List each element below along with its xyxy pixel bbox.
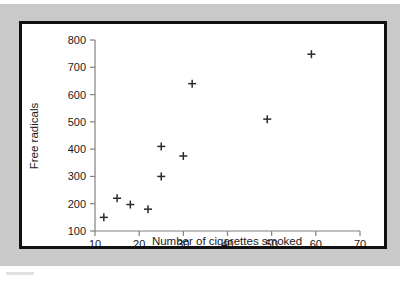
x-tick-label: 70 <box>354 238 366 246</box>
data-point-markers <box>100 50 316 221</box>
y-axis-title: Free radicals <box>28 103 40 170</box>
figure-root: 100200300400500600700800 10203040506070 … <box>0 0 406 288</box>
data-point <box>307 50 315 58</box>
data-point <box>263 115 271 123</box>
x-tick-label: 60 <box>310 238 322 246</box>
y-tick-label: 800 <box>68 34 86 46</box>
plot-card: 100200300400500600700800 10203040506070 … <box>19 21 387 249</box>
x-axis-title: Number of cigarettes smoked <box>152 235 302 246</box>
data-point <box>113 194 121 202</box>
x-tick-label: 20 <box>133 238 145 246</box>
y-axis-ticks <box>90 40 95 231</box>
y-tick-label: 400 <box>68 143 86 155</box>
data-point <box>188 80 196 88</box>
y-tick-label: 700 <box>68 61 86 73</box>
scan-artifact <box>6 272 34 275</box>
data-point <box>179 152 187 160</box>
y-tick-label: 600 <box>68 89 86 101</box>
x-tick-label: 10 <box>89 238 101 246</box>
y-tick-label: 200 <box>68 198 86 210</box>
data-point <box>126 201 134 209</box>
scatter-plot: 100200300400500600700800 10203040506070 … <box>22 24 384 246</box>
data-point <box>100 213 108 221</box>
data-point <box>157 172 165 180</box>
y-tick-label: 500 <box>68 116 86 128</box>
y-tick-label: 300 <box>68 170 86 182</box>
y-tick-label: 100 <box>68 225 86 237</box>
y-axis-tick-labels: 100200300400500600700800 <box>68 34 86 237</box>
data-point <box>157 142 165 150</box>
data-point <box>144 205 152 213</box>
